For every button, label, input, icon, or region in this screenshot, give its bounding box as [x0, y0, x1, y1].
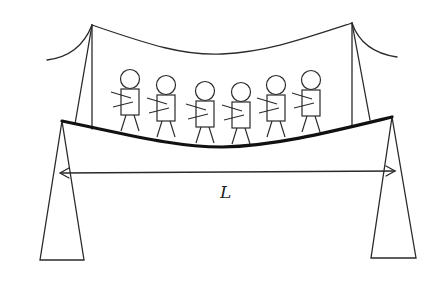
left-anchor-cable — [47, 25, 92, 60]
person-2 — [147, 76, 176, 138]
person-body — [157, 95, 175, 121]
person-body — [196, 101, 214, 127]
person-head — [232, 83, 251, 102]
person-1 — [111, 70, 140, 132]
person-head — [267, 76, 286, 95]
person-body — [232, 102, 250, 128]
right-tower-brace — [352, 23, 370, 120]
bridge-drawing — [0, 0, 447, 290]
people-group — [111, 70, 321, 145]
person-body — [121, 89, 139, 115]
person-head — [196, 82, 215, 101]
person-3 — [186, 82, 215, 144]
bridge-diagram: L — [0, 0, 447, 290]
person-4 — [222, 83, 251, 145]
person-6 — [292, 71, 321, 133]
right-pier — [371, 117, 416, 258]
person-head — [121, 70, 140, 89]
bridge-deck — [62, 117, 392, 147]
span-length-label: L — [220, 182, 231, 202]
person-head — [302, 71, 321, 90]
person-head — [157, 76, 176, 95]
person-body — [302, 90, 320, 116]
span-arrow-line — [61, 171, 395, 173]
left-pier — [40, 121, 84, 260]
right-anchor-cable — [352, 23, 397, 57]
person-5 — [257, 76, 286, 138]
main-cable — [92, 23, 352, 54]
person-body — [267, 95, 285, 121]
